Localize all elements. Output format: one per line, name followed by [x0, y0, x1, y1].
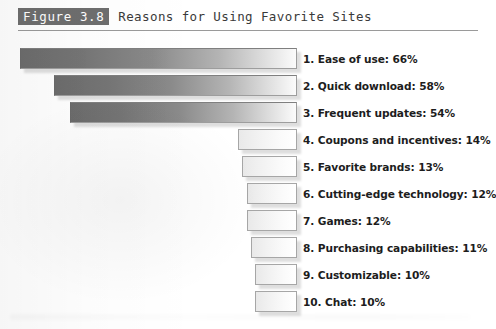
bar-row: 7. Games: 12% — [0, 210, 494, 237]
bar-fill — [255, 291, 297, 312]
bar-fill — [251, 237, 297, 258]
bar-8 — [251, 237, 297, 258]
bar-label: 6. Cutting-edge technology: 12% — [303, 183, 496, 204]
title-divider — [18, 30, 478, 31]
bar-fill — [54, 75, 297, 96]
bar-row: 4. Coupons and incentives: 14% — [0, 129, 494, 156]
bar-fill — [247, 210, 297, 231]
bar-5 — [242, 156, 297, 177]
bar-row: 10. Chat: 10% — [0, 291, 494, 318]
bar-label: 7. Games: 12% — [303, 210, 390, 231]
bar-fill — [70, 102, 297, 123]
bar-fill — [238, 129, 297, 150]
bar-label: 5. Favorite brands: 13% — [303, 156, 443, 177]
bar-fill — [20, 48, 297, 69]
bar-fill — [255, 264, 297, 285]
bar-10 — [255, 291, 297, 312]
bar-row: 1. Ease of use: 66% — [0, 48, 494, 75]
bar-label: 10. Chat: 10% — [303, 291, 385, 312]
bar-row: 6. Cutting-edge technology: 12% — [0, 183, 494, 210]
bar-fill — [247, 183, 297, 204]
bar-9 — [255, 264, 297, 285]
bar-fill — [242, 156, 297, 177]
bar-4 — [238, 129, 297, 150]
bar-row: 8. Purchasing capabilities: 11% — [0, 237, 494, 264]
figure-title: Reasons for Using Favorite Sites — [118, 9, 372, 24]
bar-label: 2. Quick download: 58% — [303, 75, 444, 96]
bar-label: 3. Frequent updates: 54% — [303, 102, 455, 123]
bar-row: 3. Frequent updates: 54% — [0, 102, 494, 129]
bar-1 — [20, 48, 297, 69]
bar-chart: 1. Ease of use: 66%2. Quick download: 58… — [0, 40, 494, 329]
bar-7 — [247, 210, 297, 231]
bar-row: 9. Customizable: 10% — [0, 264, 494, 291]
bar-row: 2. Quick download: 58% — [0, 75, 494, 102]
bar-label: 9. Customizable: 10% — [303, 264, 430, 285]
bar-6 — [247, 183, 297, 204]
bar-label: 1. Ease of use: 66% — [303, 48, 418, 69]
figure-number-badge: Figure 3.8 — [18, 8, 109, 25]
bar-label: 4. Coupons and incentives: 14% — [303, 129, 491, 150]
bar-3 — [70, 102, 297, 123]
bar-row: 5. Favorite brands: 13% — [0, 156, 494, 183]
figure-title-row: Figure 3.8 Reasons for Using Favorite Si… — [18, 6, 480, 26]
bar-2 — [54, 75, 297, 96]
bar-label: 8. Purchasing capabilities: 11% — [303, 237, 487, 258]
